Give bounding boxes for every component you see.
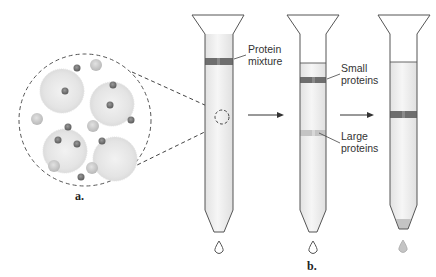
- small-protein: [99, 138, 106, 145]
- arrow-1: [248, 112, 284, 118]
- small-protein: [74, 141, 81, 148]
- porous-bead: [93, 137, 137, 181]
- large-protein: [31, 113, 43, 125]
- large-protein: [87, 120, 99, 132]
- label-line: Small: [341, 62, 378, 74]
- arrow-2: [340, 112, 374, 118]
- column-1: [192, 15, 246, 254]
- column-2: [287, 15, 340, 254]
- drop-icon: [309, 241, 317, 254]
- label-large-proteins: Large proteins: [341, 130, 378, 154]
- label-line: Protein: [248, 43, 282, 55]
- label-small-proteins: Small proteins: [341, 62, 378, 86]
- small-protein: [78, 174, 85, 181]
- panel-label-a: a.: [75, 189, 84, 204]
- small-protein: [110, 82, 117, 89]
- label-line: Large: [341, 130, 378, 142]
- large-protein: [90, 59, 102, 71]
- small-protein: [65, 124, 72, 131]
- small-protein: [128, 117, 135, 124]
- magnified-view: [19, 54, 221, 186]
- small-protein: [107, 102, 114, 109]
- large-protein: [48, 160, 60, 172]
- large-protein: [86, 162, 98, 174]
- panel-label-b: b.: [307, 259, 317, 274]
- drop-icon: [215, 241, 223, 254]
- label-line: proteins: [341, 142, 378, 154]
- label-protein-mixture: Protein mixture: [248, 43, 282, 67]
- label-line: proteins: [341, 74, 378, 86]
- small-protein: [74, 65, 81, 72]
- small-protein: [55, 137, 62, 144]
- label-line: mixture: [248, 55, 282, 67]
- small-protein: [62, 88, 69, 95]
- column-3: [378, 15, 430, 253]
- drop-icon: [399, 240, 407, 253]
